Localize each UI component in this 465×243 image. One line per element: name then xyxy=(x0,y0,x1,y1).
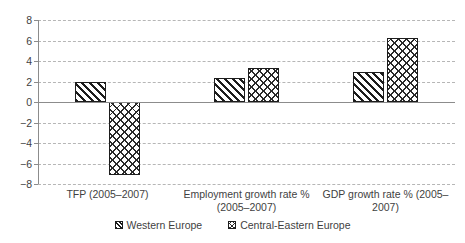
legend-label: Western Europe xyxy=(127,220,203,231)
y-axis-tick-label: 6 xyxy=(26,35,32,46)
y-axis-tick-label: 2 xyxy=(26,76,32,87)
category-label-line1: GDP growth rate % (2005– xyxy=(316,188,455,201)
legend-swatch-icon xyxy=(115,221,123,229)
legend-label: Central-Eastern Europe xyxy=(240,220,350,231)
category-label-employment: Employment growth rate % (2005–2007) xyxy=(177,188,316,214)
gridline xyxy=(38,184,455,185)
category-label-line1: TFP (2005–2007) xyxy=(38,188,177,201)
gridline xyxy=(38,164,455,165)
category-label-line1: Employment growth rate % xyxy=(177,188,316,201)
legend-swatch-icon xyxy=(228,221,236,229)
category-label-tfp: TFP (2005–2007) xyxy=(38,188,177,201)
y-axis-tick xyxy=(34,184,38,185)
y-axis-tick-label: 0 xyxy=(26,97,32,108)
category-label-line2: (2005–2007) xyxy=(177,201,316,214)
y-axis-tick-label: −4 xyxy=(20,138,32,149)
y-axis-tick-label: 8 xyxy=(26,15,32,26)
category-label-gdp: GDP growth rate % (2005– 2007) xyxy=(316,188,455,214)
gridline xyxy=(38,20,455,21)
y-axis-tick-label: −2 xyxy=(20,117,32,128)
chart-legend: Western Europe Central-Eastern Europe xyxy=(0,220,465,231)
bar[interactable] xyxy=(248,68,279,102)
bar[interactable] xyxy=(214,78,245,102)
gridline xyxy=(38,123,455,124)
gridline xyxy=(38,143,455,144)
chart-screenshot: 86420−2−4−6−8 TFP (2005–2007) Employment… xyxy=(0,0,465,243)
zero-baseline xyxy=(38,102,455,103)
plot-area: 86420−2−4−6−8 xyxy=(38,20,455,184)
bar[interactable] xyxy=(387,38,418,102)
y-axis-tick-label: 4 xyxy=(26,56,32,67)
legend-entry-western-europe[interactable]: Western Europe xyxy=(115,220,203,231)
y-axis-line xyxy=(38,20,39,184)
y-axis-tick-label: −8 xyxy=(20,179,32,190)
bar[interactable] xyxy=(75,82,106,103)
bar[interactable] xyxy=(109,102,140,175)
legend-entry-central-eastern-europe[interactable]: Central-Eastern Europe xyxy=(228,220,350,231)
y-axis-tick-label: −6 xyxy=(20,158,32,169)
category-label-line2: 2007) xyxy=(316,201,455,214)
bar[interactable] xyxy=(353,72,384,102)
